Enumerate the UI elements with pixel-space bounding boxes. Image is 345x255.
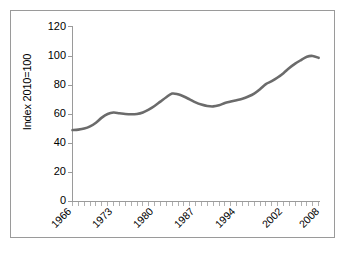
x-axis-tick-labels: 1966 1973 1980 1987 1994 2002 2008 [48, 205, 321, 230]
x-tick-label-1994: 1994 [212, 205, 237, 230]
x-tick-label-1973: 1973 [89, 205, 114, 230]
x-tick-label-2008: 2008 [296, 205, 321, 230]
x-tick-label-1966: 1966 [48, 205, 73, 230]
y-axis-ticks [68, 27, 73, 202]
y-tick-label-80: 80 [54, 78, 66, 90]
x-tick-label-2002: 2002 [259, 205, 284, 230]
y-tick-label-0: 0 [60, 194, 66, 206]
y-tick-label-20: 20 [54, 165, 66, 177]
line-chart-plot: 0 20 40 60 80 100 120 [0, 0, 345, 255]
y-axis-tick-labels: 0 20 40 60 80 100 120 [48, 20, 66, 206]
y-tick-label-100: 100 [48, 49, 66, 61]
x-tick-label-1980: 1980 [130, 205, 155, 230]
y-tick-label-40: 40 [54, 136, 66, 148]
x-tick-label-1987: 1987 [171, 205, 196, 230]
index-series-line [73, 56, 319, 130]
x-axis-minor-ticks [73, 202, 319, 206]
chart-figure: Index 2010=100 0 20 40 60 80 100 120 [0, 0, 345, 255]
y-tick-label-120: 120 [48, 20, 66, 32]
y-tick-label-60: 60 [54, 107, 66, 119]
